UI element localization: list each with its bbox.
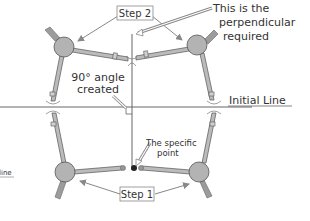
step1-arrow-right	[155, 184, 189, 194]
diagram-canvas: Step 2 Step 1 This is the perpendicular …	[0, 0, 310, 221]
perpendicular-label-3: required	[223, 30, 269, 43]
step1-label: Step 1	[121, 189, 153, 200]
cut-off-line-label: line	[0, 169, 12, 177]
arc-mark-left	[46, 101, 60, 104]
step2-label: Step 2	[119, 8, 151, 19]
perpendicular-label-2: perpendicular	[219, 16, 296, 29]
compass-bottom-left	[51, 113, 126, 199]
compass-top-right	[136, 30, 218, 100]
specific-point-label-1: The specific	[145, 138, 197, 148]
right-angle-marker	[126, 107, 132, 114]
step2-arrow-left	[78, 16, 118, 41]
specific-point-label-2: point	[157, 148, 179, 158]
construction-diagram: Step 2 Step 1 This is the perpendicular …	[0, 0, 310, 221]
initial-line-label: Initial Line	[229, 94, 286, 107]
perpendicular-label-1: This is the	[212, 2, 270, 15]
angle-label-2: created	[77, 83, 119, 96]
step1-arrow-left	[80, 181, 120, 194]
arc-mark-right	[207, 101, 221, 104]
